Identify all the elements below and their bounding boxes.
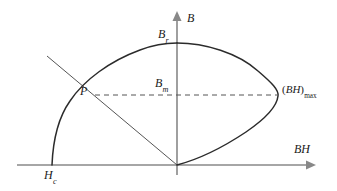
bh-axis-arrowhead — [306, 161, 316, 170]
coercivity-label: Hc — [44, 169, 56, 185]
demagnetization-curve — [52, 43, 177, 165]
b-axis-label: B — [187, 12, 194, 24]
operating-point-label: P — [80, 85, 87, 97]
bh-axis-group — [17, 161, 316, 170]
bm-label: Bm — [155, 77, 168, 93]
bh-axis-label: BH — [294, 143, 310, 155]
b-axis-group — [173, 11, 182, 175]
energy-product-curve — [177, 43, 278, 165]
remanence-label: Br — [158, 28, 169, 44]
hysteresis-energy-product-figure: B Br Bm (BH)max P Hc BH — [0, 0, 337, 191]
b-axis-arrowhead — [173, 11, 182, 21]
bh-max-label: (BH)max — [282, 84, 317, 98]
load-line — [47, 56, 177, 165]
